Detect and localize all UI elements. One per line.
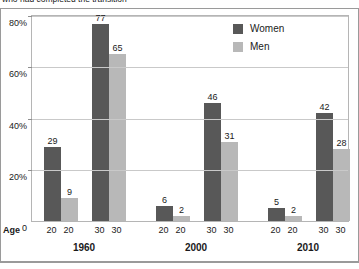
legend-item: Women	[233, 21, 353, 37]
legend-label: Women	[250, 23, 284, 35]
x-axis-age-label: 30	[216, 224, 241, 236]
frame-bottom-edge	[0, 262, 359, 263]
bar-fill	[61, 198, 78, 221]
y-axis-tick	[28, 119, 32, 120]
legend: WomenMen	[233, 21, 353, 57]
bar-fill	[268, 208, 285, 221]
x-axis-age-label: 30	[328, 224, 353, 236]
legend-label: Men	[250, 41, 269, 53]
bar-value-label: 2	[179, 205, 184, 215]
legend-swatch-icon	[233, 24, 243, 34]
bar-value-label: 65	[112, 43, 122, 53]
y-axis-tick-label: 0	[22, 224, 27, 233]
bar-value-label: 28	[336, 138, 346, 148]
bar-fill	[173, 216, 190, 221]
age-axis-label: Age	[3, 224, 20, 236]
bar-value-label: 42	[319, 102, 329, 112]
y-axis-tick	[28, 16, 32, 17]
chart-caption: who had completed the transition	[2, 0, 282, 5]
legend-item: Men	[233, 39, 353, 55]
x-axis-group-label: 2000	[166, 241, 226, 254]
y-axis-tick	[28, 170, 32, 171]
bar-fill	[316, 113, 333, 221]
bar-value-label: 9	[67, 187, 72, 197]
bar-value-label: 6	[162, 195, 167, 205]
bar-fill	[204, 103, 221, 221]
gridline	[32, 170, 348, 171]
gridline	[32, 16, 348, 17]
bar-fill	[221, 142, 238, 221]
x-axis-age-label: 20	[168, 224, 193, 236]
x-axis-group-label: 2010	[278, 241, 338, 254]
chart-page: who had completed the transition 80%60%4…	[0, 0, 359, 269]
x-axis-labels: 202030302020303020203030	[31, 224, 349, 238]
x-axis-group-labels: 196020002010	[31, 241, 349, 255]
y-axis-tick-label: 40%	[9, 122, 27, 131]
x-axis-age-label: 20	[280, 224, 305, 236]
x-axis-age-label: 20	[56, 224, 81, 236]
x-axis-age-label: 30	[104, 224, 129, 236]
bar-fill	[92, 24, 109, 221]
bar-value-label: 46	[207, 92, 217, 102]
y-axis-tick-label: 20%	[9, 173, 27, 182]
bar-fill	[44, 147, 61, 221]
bar-fill	[109, 54, 126, 221]
bar-fill	[156, 206, 173, 221]
bar-value-label: 5	[274, 197, 279, 207]
y-axis-tick	[28, 67, 32, 68]
bar-value-label: 29	[47, 136, 57, 146]
bar-value-label: 77	[95, 13, 105, 23]
legend-swatch-icon	[233, 42, 243, 52]
y-axis-tick-label: 80%	[9, 19, 27, 28]
x-axis-group-label: 1960	[54, 241, 114, 254]
bar-value-label: 2	[291, 205, 296, 215]
gridline	[32, 119, 348, 120]
y-axis-tick-label: 60%	[9, 70, 27, 79]
gridline	[32, 67, 348, 68]
bar-fill	[333, 149, 350, 221]
bar-value-label: 31	[224, 131, 234, 141]
bar-fill	[285, 216, 302, 221]
